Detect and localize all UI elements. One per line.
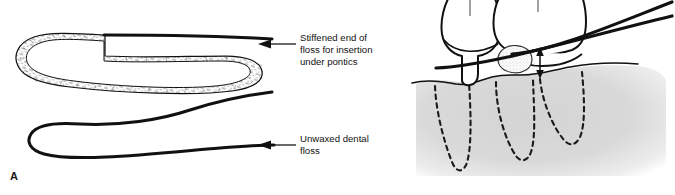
stiffened-end-tail — [104, 35, 272, 39]
panel-a-artwork — [0, 0, 400, 195]
callout-arrow-stiffened — [258, 39, 296, 48]
unwaxed-floss-strand — [29, 92, 274, 158]
floss-curve — [29, 92, 274, 158]
callout-unwaxed-floss-label: Unwaxed dental floss — [300, 133, 400, 157]
callout-arrow-unwaxed — [258, 140, 296, 149]
panel-a: Stiffened end of floss for insertion und… — [0, 0, 400, 195]
panel-letter-a: A — [10, 170, 18, 182]
callout-stiffened-end-label: Stiffened end of floss for insertion und… — [300, 32, 400, 69]
stiffened-threader-loop — [16, 33, 262, 94]
panel-b: B — [400, 0, 675, 195]
panel-b-artwork — [400, 0, 675, 195]
abutment-tooth-crown — [441, 0, 500, 85]
figure-root: Stiffened end of floss for insertion und… — [0, 0, 675, 195]
abutment-crown-outline — [441, 0, 500, 85]
